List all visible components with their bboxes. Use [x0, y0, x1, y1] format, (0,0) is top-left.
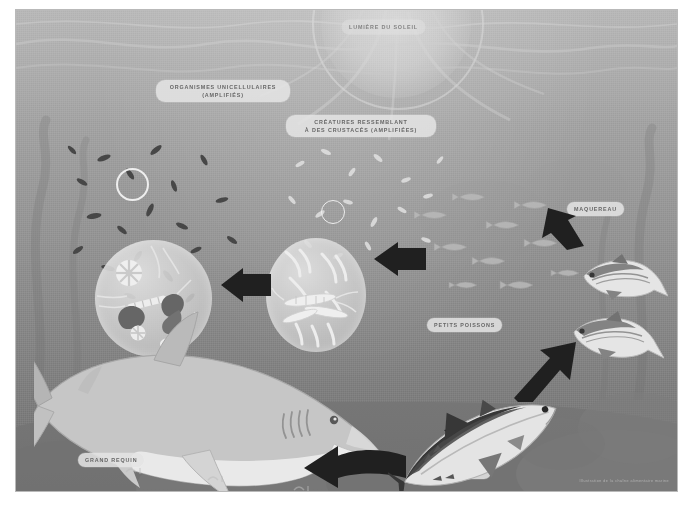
label-sunlight: LUMIÈRE DU SOLEIL	[342, 20, 425, 34]
label-great-shark: GRAND REQUIN	[78, 453, 144, 467]
arrow-crustacean-to-unicellular	[219, 268, 271, 302]
tuna	[388, 386, 578, 491]
magnifier-sight-ring-crustacean	[321, 200, 345, 224]
label-unicellular-organisms: ORGANISMES UNICELLULAIRES (AMPLIFIÉS)	[156, 80, 290, 102]
label-crustacean-creatures: CRÉATURES RESSEMBLANT À DES CRUSTACÉS (A…	[286, 115, 436, 137]
arrow-smallfish-to-crustacean	[372, 242, 426, 276]
label-small-fish: PETITS POISSONS	[427, 318, 502, 332]
figure-credit: Illustration de la chaîne alimentaire ma…	[579, 479, 669, 483]
arrow-mackerel-to-smallfish	[524, 206, 586, 250]
magnifier-sight-ring-unicellular	[116, 168, 149, 201]
mackerel-upper	[572, 250, 668, 306]
page-root: LUMIÈRE DU SOLEIL ORGANISMES UNICELLULAI…	[0, 0, 695, 514]
marine-food-chain-figure: LUMIÈRE DU SOLEIL ORGANISMES UNICELLULAI…	[16, 10, 677, 491]
